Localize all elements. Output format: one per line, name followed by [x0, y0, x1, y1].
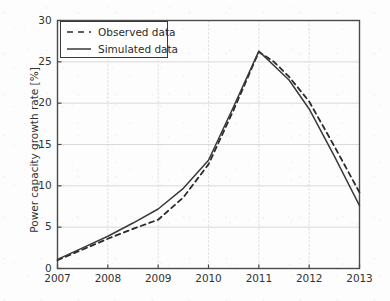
x-tick-label: 2011	[239, 272, 279, 284]
x-tick-label: 2008	[88, 272, 128, 284]
y-tick-label: 30	[26, 14, 52, 26]
x-tick-label: 2007	[38, 272, 78, 284]
legend: Observed data Simulated data	[60, 21, 168, 58]
legend-sample-dashed-icon	[66, 26, 92, 38]
chart-figure: 051015202530 200720082009201020112012201…	[0, 0, 390, 301]
x-tick-label: 2009	[138, 272, 178, 284]
legend-sample-solid-icon	[66, 43, 92, 55]
x-tick-label: 2013	[340, 272, 380, 284]
legend-label-simulated: Simulated data	[98, 43, 178, 55]
plot-area	[0, 0, 390, 301]
x-tick-label: 2010	[189, 272, 229, 284]
y-axis-label: Power capacity growth rate [%]	[28, 40, 40, 260]
x-tick-label: 2012	[289, 272, 329, 284]
legend-item-simulated: Simulated data	[61, 40, 169, 58]
legend-item-observed: Observed data	[61, 23, 169, 41]
legend-label-observed: Observed data	[98, 26, 176, 38]
